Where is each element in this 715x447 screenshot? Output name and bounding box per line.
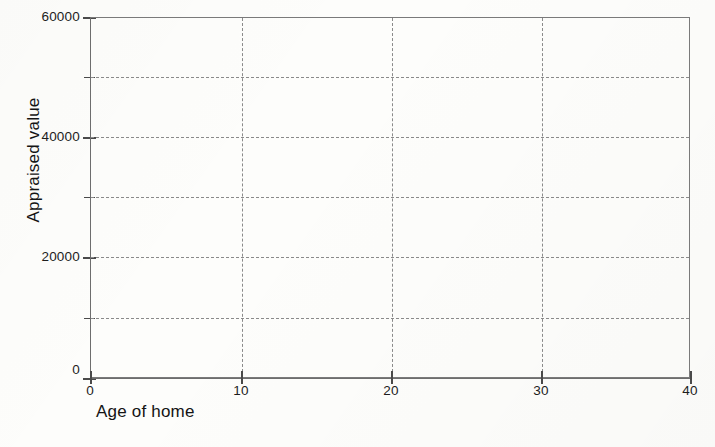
y-tick-label-20000: 20000: [6, 249, 80, 264]
x-tick-label-0-wrap: 0: [60, 381, 120, 399]
x-tick-label-20: 20: [383, 383, 398, 398]
gridline-x-20: [392, 18, 393, 377]
gridline-y-40000: [91, 137, 689, 138]
x-axis-line: [90, 378, 690, 379]
y-axis-title: Appraised value: [24, 50, 44, 270]
y-axis-line: [90, 17, 91, 378]
y-tick-label-60000: 60000: [6, 9, 80, 24]
scatter-plot-figure: Appraised value 60000 40000 20000 0: [0, 0, 715, 447]
y-tick-label-40000-wrap: 40000: [0, 129, 80, 145]
gridline-x-30: [542, 18, 543, 377]
x-tick-label-10: 10: [233, 383, 248, 398]
gridline-y-30000: [91, 197, 689, 198]
x-tick-label-10-wrap: 10: [211, 381, 271, 399]
y-tick-label-0: 0: [6, 362, 80, 377]
x-tick-label-40-wrap: 40: [660, 381, 715, 399]
x-tick-label-40: 40: [682, 383, 697, 398]
x-tick-label-30-wrap: 30: [511, 381, 571, 399]
y-tick-label-0-wrap: 0: [0, 362, 80, 378]
y-tick-label-20000-wrap: 20000: [0, 249, 80, 265]
gridline-y-50000: [91, 77, 689, 78]
x-tick-label-0: 0: [86, 383, 94, 398]
x-tick-label-30: 30: [533, 383, 548, 398]
gridline-y-10000: [91, 318, 689, 319]
y-tick-label-40000: 40000: [6, 129, 80, 144]
x-tick-label-20-wrap: 20: [361, 381, 421, 399]
plot-area[interactable]: [90, 17, 690, 378]
x-axis-title: Age of home: [96, 402, 195, 422]
gridline-x-10: [242, 18, 243, 377]
gridline-y-20000: [91, 257, 689, 258]
y-tick-label-60000-wrap: 60000: [0, 9, 80, 25]
